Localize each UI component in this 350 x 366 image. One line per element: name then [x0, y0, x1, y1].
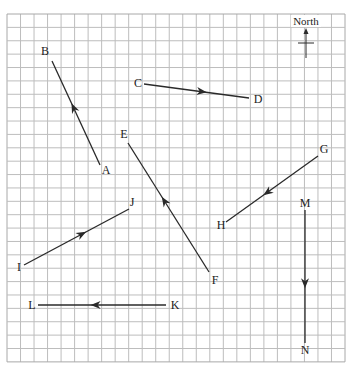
- point-label-g: G: [320, 142, 329, 156]
- vector-line: [52, 61, 100, 165]
- point-label-d: D: [254, 92, 263, 106]
- point-label-m: M: [300, 196, 311, 210]
- point-label-h: H: [217, 218, 226, 232]
- vector-ij: IJ: [17, 195, 135, 274]
- point-label-a: A: [102, 163, 111, 177]
- point-label-k: K: [171, 298, 180, 312]
- point-label-f: F: [212, 273, 219, 287]
- north-compass: North: [291, 15, 321, 58]
- point-label-c: C: [134, 76, 142, 90]
- vector-mn: MN: [300, 196, 311, 357]
- point-label-e: E: [120, 127, 127, 141]
- vector-gh: GH: [217, 142, 329, 232]
- vectors-layer: ABCDFEGHIJKLMN: [17, 44, 329, 357]
- vector-line: [128, 143, 209, 272]
- vector-kl: KL: [28, 298, 179, 312]
- point-label-i: I: [17, 260, 21, 274]
- north-label: North: [293, 15, 319, 27]
- point-label-j: J: [130, 195, 135, 209]
- point-label-n: N: [301, 343, 310, 357]
- point-label-b: B: [41, 44, 49, 58]
- point-label-l: L: [28, 298, 35, 312]
- vector-line: [24, 209, 129, 265]
- vector-ab: AB: [41, 44, 111, 177]
- vector-grid-diagram: ABCDFEGHIJKLMN North: [0, 0, 350, 366]
